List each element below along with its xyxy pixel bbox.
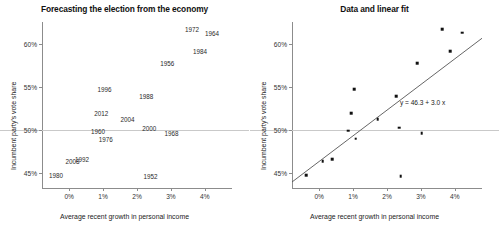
regression-equation-annotation: y = 46.3 + 3.0 x bbox=[400, 99, 445, 106]
data-point-label-1956: 1956 bbox=[160, 60, 174, 67]
y-tick-label-55pct: 55% bbox=[274, 84, 287, 91]
y-axis-title-right: Incumbent party's vote share bbox=[260, 82, 267, 170]
x-tick-mark bbox=[455, 188, 456, 191]
plot-area-right: 45%50%55%60%0%1%2%3%4%y = 46.3 + 3.0 x bbox=[292, 22, 482, 188]
data-point-label-1964: 1964 bbox=[205, 29, 219, 36]
data-point-label-1976: 1976 bbox=[99, 135, 113, 142]
data-point-label-1996: 1996 bbox=[97, 86, 111, 93]
data-point-label-1968: 1968 bbox=[165, 130, 179, 137]
data-point-marker-2012 bbox=[350, 112, 353, 115]
data-point-marker-1988 bbox=[395, 95, 398, 98]
data-point-label-1952: 1952 bbox=[144, 173, 158, 180]
x-tick-label-4pct: 4% bbox=[450, 193, 460, 200]
data-point-marker-1980 bbox=[305, 174, 308, 177]
x-tick-mark bbox=[387, 188, 388, 191]
x-tick-label-1pct: 1% bbox=[98, 193, 108, 200]
data-point-marker-1972 bbox=[441, 28, 444, 31]
x-axis-title-left: Average recent growth in personal income bbox=[0, 213, 249, 220]
data-point-marker-1976 bbox=[354, 138, 357, 141]
x-tick-label-2pct: 2% bbox=[132, 193, 142, 200]
data-point-label-2012: 2012 bbox=[94, 110, 108, 117]
reference-line-50-percent bbox=[0, 130, 249, 131]
data-point-marker-1960 bbox=[347, 129, 350, 132]
x-tick-mark bbox=[137, 188, 138, 191]
data-point-marker-1952 bbox=[399, 175, 402, 178]
x-tick-mark bbox=[319, 188, 320, 191]
data-point-marker-1992 bbox=[331, 158, 334, 161]
y-tick-label-45pct: 45% bbox=[274, 169, 287, 176]
x-tick-mark bbox=[103, 188, 104, 191]
data-point-label-1960: 1960 bbox=[91, 127, 105, 134]
data-point-label-2000: 2000 bbox=[142, 124, 156, 131]
y-tick-label-50pct: 50% bbox=[274, 126, 287, 133]
x-tick-label-1pct: 1% bbox=[348, 193, 358, 200]
figure-two-panel-scatter: Forecasting the election from the econom… bbox=[0, 0, 499, 235]
data-point-label-2004: 2004 bbox=[120, 116, 134, 123]
y-tick-mark bbox=[39, 44, 42, 45]
x-tick-label-0pct: 0% bbox=[314, 193, 324, 200]
data-point-label-1972: 1972 bbox=[185, 25, 199, 32]
panel-title-left: Forecasting the election from the econom… bbox=[0, 4, 249, 14]
y-tick-mark bbox=[39, 173, 42, 174]
y-tick-mark bbox=[39, 87, 42, 88]
panel-linear-fit: Data and linear fit 45%50%55%60%0%1%2%3%… bbox=[250, 0, 499, 235]
x-tick-mark bbox=[353, 188, 354, 191]
data-point-marker-1968 bbox=[420, 132, 423, 135]
data-point-label-2008: 2008 bbox=[66, 158, 80, 165]
plot-area-left: 45%50%55%60%0%1%2%3%4%195219561960196419… bbox=[42, 22, 232, 188]
x-tick-label-2pct: 2% bbox=[382, 193, 392, 200]
panel-title-right: Data and linear fit bbox=[250, 4, 499, 14]
data-point-marker-2008 bbox=[321, 160, 324, 163]
data-point-label-1980: 1980 bbox=[49, 172, 63, 179]
y-tick-label-45pct: 45% bbox=[24, 169, 37, 176]
x-tick-label-3pct: 3% bbox=[416, 193, 426, 200]
data-point-marker-1984 bbox=[449, 50, 452, 53]
data-point-label-1984: 1984 bbox=[193, 48, 207, 55]
data-point-marker-1956 bbox=[416, 62, 419, 65]
data-point-marker-1964 bbox=[461, 31, 464, 34]
x-tick-label-0pct: 0% bbox=[64, 193, 74, 200]
y-tick-label-50pct: 50% bbox=[24, 126, 37, 133]
x-tick-label-4pct: 4% bbox=[200, 193, 210, 200]
x-tick-mark bbox=[421, 188, 422, 191]
x-tick-mark bbox=[205, 188, 206, 191]
y-tick-label-60pct: 60% bbox=[24, 41, 37, 48]
y-axis-title-left: Incumbent party's vote share bbox=[10, 82, 17, 170]
y-tick-label-60pct: 60% bbox=[274, 41, 287, 48]
data-point-marker-2000 bbox=[398, 126, 401, 129]
regression-fit-line bbox=[292, 22, 482, 188]
y-axis-line-left bbox=[42, 22, 43, 188]
data-point-marker-2004 bbox=[376, 118, 379, 121]
y-tick-mark bbox=[39, 130, 42, 131]
data-point-label-1988: 1988 bbox=[139, 93, 153, 100]
x-axis-title-right: Average recent growth in personal income bbox=[250, 213, 499, 220]
x-tick-mark bbox=[69, 188, 70, 191]
y-tick-label-55pct: 55% bbox=[24, 84, 37, 91]
x-tick-mark bbox=[171, 188, 172, 191]
panel-forecasting: Forecasting the election from the econom… bbox=[0, 0, 249, 235]
x-tick-label-3pct: 3% bbox=[166, 193, 176, 200]
data-point-marker-1996 bbox=[353, 88, 356, 91]
